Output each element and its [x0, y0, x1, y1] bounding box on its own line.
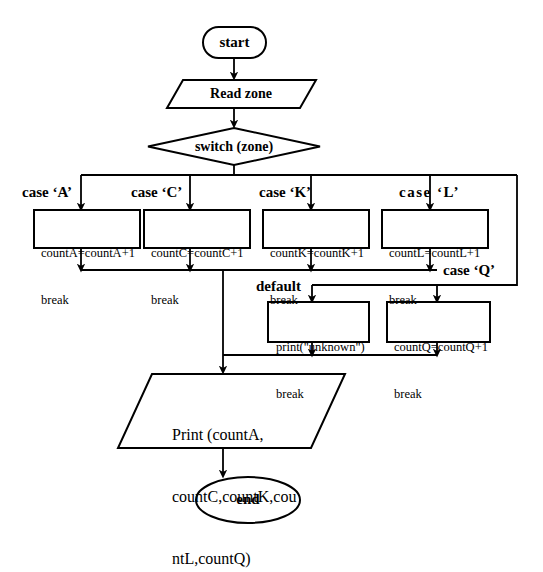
case-q-box-text: countQ=countQ+1 break [394, 309, 494, 434]
edge-label-case-a: case ‘A’ [22, 184, 72, 201]
default-box-line1: print("unknown") [276, 340, 371, 356]
start-node-label: start [203, 34, 266, 51]
case-c-box-line1: countC=countC+1 [151, 246, 251, 262]
end-node-label: end [198, 491, 298, 508]
case-q-box-line2: break [394, 387, 494, 403]
case-a-box-line2: break [41, 293, 141, 309]
edge-label-case-l: case ‘L’ [399, 184, 460, 201]
case-a-box-text: countA=countA+1 break [41, 215, 141, 340]
print-node-line1: Print (countA, [172, 425, 332, 446]
case-q-box-line1: countQ=countQ+1 [394, 340, 494, 356]
case-c-box-line2: break [151, 293, 251, 309]
case-l-box-line2: break [389, 293, 489, 309]
edge-label-case-k: case ‘K’ [259, 184, 311, 201]
case-k-box-line1: countK=countK+1 [270, 246, 370, 262]
case-l-box-line1: countL=countL+1 [389, 246, 489, 262]
print-node-text: Print (countA, countC,countK,cou ntL,cou… [172, 383, 332, 572]
print-node-line3: ntL,countQ) [172, 549, 332, 570]
edge-label-case-c: case ‘C’ [131, 184, 182, 201]
case-k-box-line2: break [270, 293, 370, 309]
case-a-box-line1: countA=countA+1 [41, 246, 141, 262]
case-c-box-text: countC=countC+1 break [151, 215, 251, 340]
switch-decision-label: switch (zone) [164, 139, 304, 155]
read-zone-label: Read zone [176, 86, 306, 102]
